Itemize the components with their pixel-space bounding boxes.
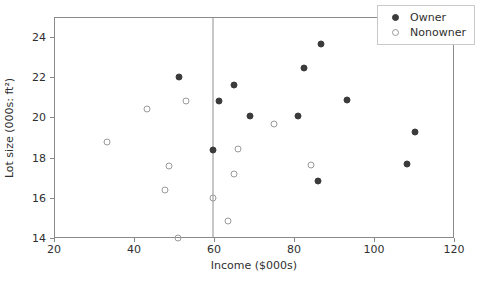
data-point-nonowner	[271, 121, 278, 128]
x-tick	[374, 238, 375, 242]
legend-item-nonowner: Nonowner	[384, 25, 466, 40]
x-tick-label: 40	[127, 243, 141, 256]
x-tick	[134, 238, 135, 242]
plot-area	[54, 17, 454, 238]
legend-label-nonowner: Nonowner	[406, 26, 466, 39]
x-tick	[294, 238, 295, 242]
x-tick-label: 100	[364, 243, 385, 256]
data-point-owner	[318, 41, 325, 48]
legend-marker-nonowner-wrap	[384, 29, 406, 36]
x-tick	[454, 238, 455, 242]
y-tick-label: 20	[32, 111, 46, 124]
data-point-nonowner	[174, 234, 181, 241]
data-point-nonowner	[231, 170, 238, 177]
data-point-nonowner	[183, 98, 190, 105]
legend-item-owner: Owner	[384, 10, 466, 25]
data-point-nonowner	[144, 106, 151, 113]
x-tick	[54, 238, 55, 242]
threshold-vertical-line	[212, 18, 213, 237]
y-tick	[50, 77, 54, 78]
data-point-owner	[412, 128, 419, 135]
data-point-nonowner	[162, 186, 169, 193]
y-tick	[50, 238, 54, 239]
filled-circle-icon	[392, 14, 399, 21]
data-point-owner	[247, 113, 254, 120]
data-point-nonowner	[104, 138, 111, 145]
x-tick-label: 80	[287, 243, 301, 256]
x-tick-label: 60	[207, 243, 221, 256]
data-point-owner	[216, 98, 223, 105]
x-axis-label: Income ($000s)	[211, 259, 297, 272]
data-point-owner	[404, 160, 411, 167]
data-point-owner	[301, 65, 308, 72]
x-tick-label: 120	[444, 243, 465, 256]
legend: Owner Nonowner	[377, 5, 475, 45]
y-tick	[50, 198, 54, 199]
data-point-owner	[315, 177, 322, 184]
data-point-owner	[295, 113, 302, 120]
data-point-nonowner	[166, 162, 173, 169]
legend-marker-owner-wrap	[384, 14, 406, 21]
y-tick-label: 22	[32, 71, 46, 84]
y-axis-label: Lot size (000s: ft²)	[3, 78, 16, 178]
data-point-owner	[231, 82, 238, 89]
data-point-owner	[344, 97, 351, 104]
data-point-nonowner	[308, 161, 315, 168]
data-point-nonowner	[225, 217, 232, 224]
data-point-nonowner	[209, 194, 216, 201]
open-circle-icon	[392, 29, 399, 36]
y-tick-label: 16	[32, 191, 46, 204]
x-tick-label: 20	[47, 243, 61, 256]
y-tick	[50, 37, 54, 38]
y-tick-label: 14	[32, 232, 46, 245]
y-tick	[50, 117, 54, 118]
data-point-owner	[209, 146, 216, 153]
scatter-plot-figure: 20406080100120 141618202224 Income ($000…	[0, 0, 481, 283]
data-point-owner	[176, 74, 183, 81]
y-tick-label: 24	[32, 31, 46, 44]
y-tick-label: 18	[32, 151, 46, 164]
y-tick	[50, 158, 54, 159]
x-tick	[214, 238, 215, 242]
legend-label-owner: Owner	[406, 11, 446, 24]
data-point-nonowner	[235, 145, 242, 152]
